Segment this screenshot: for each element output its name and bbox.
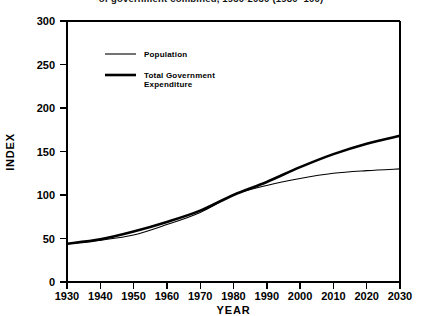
y-tick-label-100: 100 [37,189,55,201]
y-tick-label-50: 50 [43,233,55,245]
x-tick-label-1930: 1930 [55,290,79,302]
legend-label-population: Population [144,50,187,59]
series-line-population [67,169,400,244]
y-tick-label-0: 0 [49,276,55,288]
x-tick-label-1950: 1950 [121,290,145,302]
chart-figure: of government combined, 1930-2030 (1980=… [0,0,422,316]
x-tick-label-2010: 2010 [321,290,345,302]
x-tick-label-1970: 1970 [188,290,212,302]
data-series-group [67,136,400,244]
y-axis-ticks [60,21,67,282]
y-tick-label-300: 300 [37,15,55,27]
x-tick-label-1990: 1990 [255,290,279,302]
x-tick-label-1980: 1980 [221,290,245,302]
legend-label-total-government-expenditure-line2: Expenditure [144,80,193,89]
y-tick-label-200: 200 [37,102,55,114]
y-tick-label-150: 150 [37,146,55,158]
x-axis-tick-labels: 1930 1940 1950 1960 1970 1980 1990 2000 … [55,290,412,302]
y-axis-title: INDEX [4,133,16,171]
y-tick-label-250: 250 [37,59,55,71]
plot-frame [67,21,400,282]
x-axis-title: YEAR [217,304,251,316]
x-tick-label-1960: 1960 [155,290,179,302]
x-axis-ticks [67,282,400,289]
x-tick-label-2000: 2000 [288,290,312,302]
legend-label-total-government-expenditure-line1: Total Government [144,71,215,80]
y-axis-tick-labels: 0 50 100 150 200 250 300 [37,15,55,288]
x-tick-label-1940: 1940 [88,290,112,302]
chart-legend: Population Total Government Expenditure [105,50,215,89]
line-chart-plot: 0 50 100 150 200 250 300 1930 1940 19 [0,0,422,316]
series-line-total-government-expenditure [67,136,400,244]
x-tick-label-2020: 2020 [354,290,378,302]
x-tick-label-2030: 2030 [388,290,412,302]
